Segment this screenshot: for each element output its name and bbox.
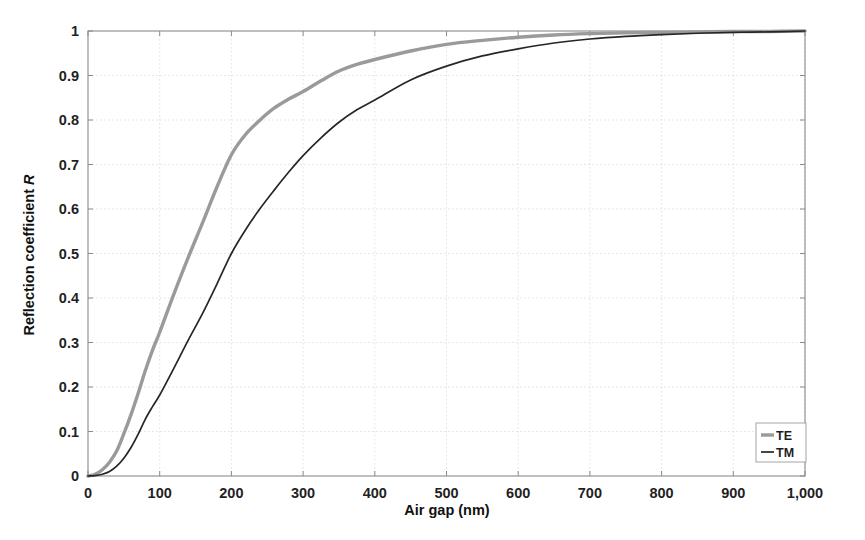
x-tick-label: 600: [506, 485, 530, 501]
figure-container: 01002003004005006007008009001,000 00.10.…: [0, 0, 865, 540]
svg-text:Reflection coefficient R: Reflection coefficient R: [21, 174, 37, 336]
y-tick-label: 0.2: [59, 379, 79, 395]
x-tick-label: 1,000: [787, 485, 823, 501]
chart-background: [0, 0, 865, 540]
x-axis-title: Air gap (nm): [404, 502, 490, 518]
x-tick-label: 800: [649, 485, 673, 501]
y-tick-label: 0.1: [59, 424, 79, 440]
y-tick-label: 1: [71, 23, 79, 39]
y-tick-label: 0.7: [59, 157, 79, 173]
reflection-coefficient-chart: 01002003004005006007008009001,000 00.10.…: [0, 0, 865, 540]
y-axis-title-symbol: R: [21, 174, 37, 185]
y-tick-label: 0.5: [59, 246, 79, 262]
y-tick-label: 0.9: [59, 68, 79, 84]
y-tick-label: 0.6: [59, 201, 79, 217]
x-tick-label: 200: [219, 485, 243, 501]
y-axis-title-text: Reflection coefficient: [21, 185, 37, 336]
y-tick-label: 0.4: [59, 290, 79, 306]
legend-label-tm: TM: [776, 446, 794, 460]
x-tick-label: 300: [291, 485, 315, 501]
y-tick-label: 0.8: [59, 112, 79, 128]
x-tick-label: 700: [578, 485, 602, 501]
y-tick-label: 0.3: [59, 335, 79, 351]
x-tick-label: 100: [148, 485, 172, 501]
x-tick-label: 0: [84, 485, 92, 501]
legend[interactable]: TETM: [756, 423, 806, 462]
x-tick-label: 400: [363, 485, 387, 501]
y-axis-title: Reflection coefficient R: [21, 174, 37, 336]
x-tick-label: 900: [721, 485, 745, 501]
y-tick-label: 0: [71, 468, 79, 484]
legend-label-te: TE: [776, 429, 792, 443]
x-tick-label: 500: [434, 485, 458, 501]
